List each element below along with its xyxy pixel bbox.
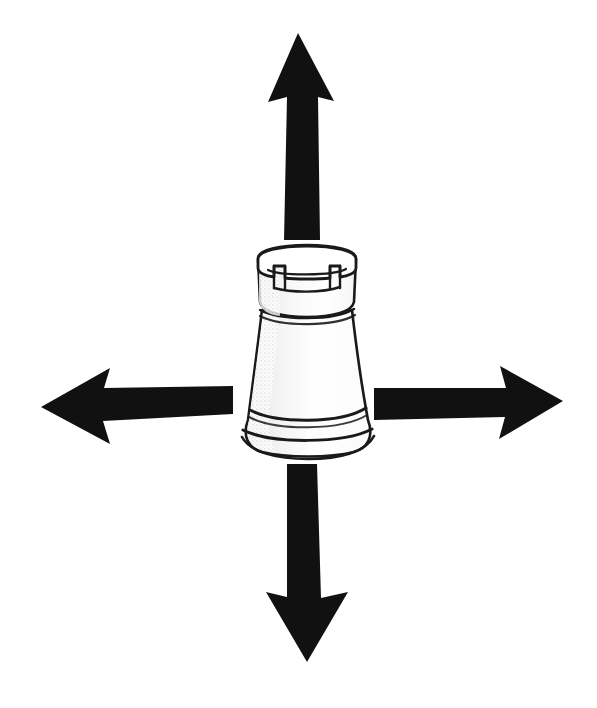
chess-rook	[242, 245, 374, 459]
figure-root: Chess Rook Movement Diagram Line-art che…	[0, 0, 597, 708]
rook-movement-diagram: Chess Rook Movement Diagram Line-art che…	[0, 0, 597, 708]
